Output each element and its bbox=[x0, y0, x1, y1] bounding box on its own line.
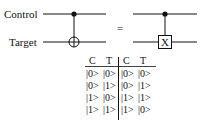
target-label: Target bbox=[9, 36, 37, 48]
table-cell: |0> bbox=[86, 68, 99, 79]
table-cell: |1> bbox=[121, 92, 134, 103]
control-label: Control bbox=[4, 8, 38, 20]
table-cell: |0> bbox=[121, 80, 134, 91]
table-cell: |1> bbox=[86, 104, 99, 115]
equals-sign: = bbox=[117, 22, 123, 34]
table-cell: |1> bbox=[121, 104, 134, 115]
table-cell: |0> bbox=[138, 104, 151, 115]
table-cell: |0> bbox=[103, 92, 116, 103]
table-cell: |0> bbox=[103, 68, 116, 79]
table-cell: |1> bbox=[138, 80, 151, 91]
table-cell: |1> bbox=[86, 92, 99, 103]
table-cell: |1> bbox=[138, 92, 151, 103]
header-c-in: C bbox=[89, 55, 96, 66]
control-dot-icon bbox=[162, 11, 167, 16]
control-dot-icon bbox=[71, 11, 76, 16]
table-cell: |1> bbox=[103, 80, 116, 91]
header-c-out: C bbox=[123, 55, 130, 66]
table-cell: |1> bbox=[103, 104, 116, 115]
header-t-in: T bbox=[106, 55, 112, 66]
table-cell: |0> bbox=[138, 68, 151, 79]
xor-target-icon bbox=[69, 37, 79, 47]
x-gate-label: X bbox=[161, 36, 169, 48]
table-cell: |0> bbox=[121, 68, 134, 79]
header-t-out: T bbox=[140, 55, 146, 66]
table-cell: |0> bbox=[86, 80, 99, 91]
